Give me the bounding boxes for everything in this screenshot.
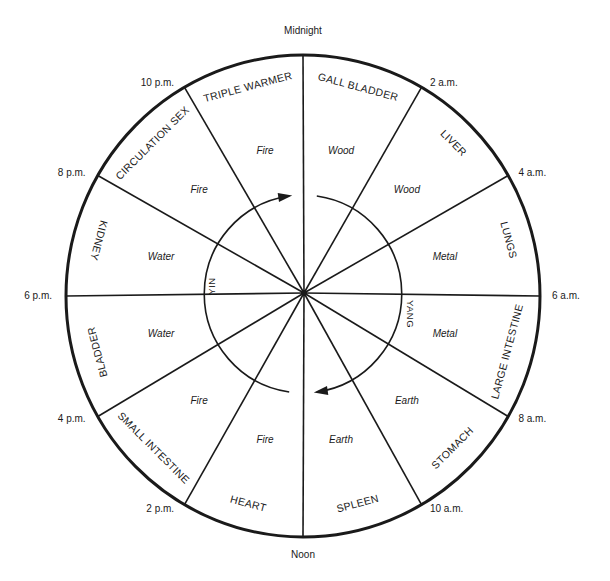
- yang-label: YANG: [405, 300, 416, 328]
- time-label-10-p-m: 10 p.m.: [141, 77, 174, 88]
- organ-label-circulation-sex: CIRCULATION SEX: [113, 103, 191, 181]
- element-label-water: Water: [148, 251, 175, 262]
- organ-clock-diagram: YIN YANG GALL BLADDERLIVERLUNGSLARGE INT…: [0, 0, 610, 581]
- element-label-earth: Earth: [395, 395, 419, 406]
- spoke-90deg: [304, 293, 540, 296]
- yang-arrowhead-icon: [314, 386, 329, 395]
- element-label-wood: Wood: [394, 184, 421, 195]
- time-label-6-a-m: 6 a.m.: [552, 290, 580, 301]
- yin-arrowhead-icon: [278, 193, 293, 202]
- spoke-180deg: [303, 293, 304, 537]
- time-label-midnight: Midnight: [284, 25, 322, 36]
- organ-label-spleen: SPLEEN: [335, 492, 380, 515]
- element-label-fire: Fire: [256, 434, 274, 445]
- element-label-earth: Earth: [329, 434, 353, 445]
- time-label-2-a-m: 2 a.m.: [430, 77, 458, 88]
- spoke-0deg: [303, 55, 304, 293]
- sector-dividers: [66, 55, 540, 537]
- element-label-fire: Fire: [256, 145, 274, 156]
- element-label-fire: Fire: [190, 184, 208, 195]
- time-label-4-a-m: 4 a.m.: [518, 167, 546, 178]
- organ-label-triple-warmer: TRIPLE WARMER: [202, 69, 293, 104]
- element-label-fire: Fire: [190, 395, 208, 406]
- time-label-10-a-m: 10 a.m.: [430, 503, 463, 514]
- yin-label: YIN: [206, 277, 217, 294]
- element-label-water: Water: [148, 328, 175, 339]
- organ-label-liver: LIVER: [438, 127, 469, 158]
- time-label-8-p-m: 8 p.m.: [58, 167, 86, 178]
- organ-label-stomach: STOMACH: [429, 424, 476, 471]
- organ-label-kidney: KIDNEY: [88, 219, 110, 262]
- element-label-metal: Metal: [433, 328, 458, 339]
- time-label-8-a-m: 8 a.m.: [518, 413, 546, 424]
- organ-label-bladder: BLADDER: [84, 325, 109, 378]
- time-label-4-p-m: 4 p.m.: [58, 413, 86, 424]
- spoke-270deg: [66, 293, 304, 296]
- time-label-6-p-m: 6 p.m.: [24, 290, 52, 301]
- organ-label-small-intestine: SMALL INTESTINE: [116, 409, 193, 486]
- time-label-noon: Noon: [291, 549, 315, 560]
- element-label-wood: Wood: [328, 145, 355, 156]
- organ-label-heart: HEART: [229, 493, 268, 514]
- element-label-metal: Metal: [433, 251, 458, 262]
- center-hub: [301, 290, 307, 296]
- time-label-2-p-m: 2 p.m.: [146, 503, 174, 514]
- organ-label-large-intestine: LARGE INTESTINE: [488, 303, 525, 401]
- organ-label-lungs: LUNGS: [498, 220, 519, 260]
- organ-label-gall-bladder: GALL BLADDER: [317, 70, 400, 103]
